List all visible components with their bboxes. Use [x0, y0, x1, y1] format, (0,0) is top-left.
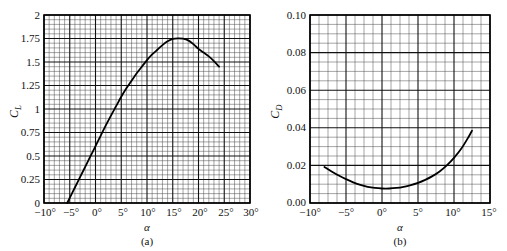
y-axis-title: CD: [268, 95, 283, 129]
x-tick-label: 0°: [362, 207, 402, 218]
y-axis-subscript: L: [13, 105, 23, 110]
x-tick-label: 5°: [398, 207, 438, 218]
y-axis-symbol: C: [7, 110, 21, 118]
y-tick-label: 0.10: [262, 10, 306, 21]
y-tick-label: 1.5: [2, 57, 40, 68]
x-tick-label: 15°: [469, 207, 507, 218]
x-axis-title: α: [127, 221, 167, 233]
figure-root: 2 1.75 1.5 1.25 1 0.75 0.5 0.25 0 CL −10…: [0, 0, 507, 251]
y-tick-label: 1.25: [2, 80, 40, 91]
y-tick-label: 0.75: [2, 127, 40, 138]
y-axis-subscript: D: [274, 104, 284, 110]
panel-lift-coefficient: 2 1.75 1.5 1.25 1 0.75 0.5 0.25 0 CL −10…: [0, 0, 262, 251]
y-tick-label: 2: [2, 10, 40, 21]
y-tick-label: 0.5: [2, 151, 40, 162]
y-axis-title: CL: [7, 95, 22, 129]
plot-area: [44, 15, 250, 203]
y-tick-label: 1.75: [2, 33, 40, 44]
y-tick-label: 0.08: [262, 47, 306, 58]
y-axis-symbol: C: [268, 111, 282, 119]
plot-area: [310, 15, 490, 203]
x-axis-title: α: [380, 221, 420, 233]
y-tick-label: 0.02: [262, 160, 306, 171]
x-tick-label: −5°: [326, 207, 366, 218]
panel-caption: (b): [380, 235, 420, 247]
y-tick-label: 0.25: [2, 174, 40, 185]
panel-caption: (a): [127, 235, 167, 247]
x-tick-label: 10°: [433, 207, 473, 218]
panel-drag-coefficient: 0.10 0.08 0.06 0.04 0.02 0.00 CD −10° −5…: [262, 0, 507, 251]
x-tick-label: −10°: [290, 207, 330, 218]
